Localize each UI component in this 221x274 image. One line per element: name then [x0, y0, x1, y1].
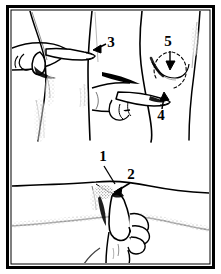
callout-label-3: 3	[107, 34, 115, 50]
callout-label-5: 5	[164, 33, 172, 49]
illustration-figure: 1 2 3 4 5	[0, 0, 221, 274]
callout-label-4: 4	[157, 107, 165, 123]
illustration-canvas: 1 2 3 4 5	[0, 0, 221, 274]
callout-label-2: 2	[127, 166, 135, 182]
callout-label-1: 1	[99, 148, 107, 164]
